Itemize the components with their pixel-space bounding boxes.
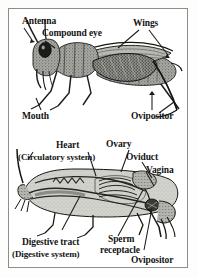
- label-digestive-tract: Digestive tract: [22, 237, 79, 247]
- label-oviduct: Oviduct: [126, 152, 158, 162]
- label-digestive-system: (Digestive system): [12, 249, 79, 259]
- label-sperm: Sperm: [108, 234, 134, 244]
- label-antenna: Antenna: [22, 16, 56, 26]
- figure-page: Antenna Compound eye Wings Mouth Oviposi…: [0, 0, 198, 278]
- label-wings: Wings: [133, 18, 158, 28]
- label-ovipositor: Ovipositor: [131, 111, 173, 121]
- label-mouth: Mouth: [22, 111, 49, 121]
- label-compound-eye: Compound eye: [42, 28, 102, 38]
- label-vagina: Vagina: [146, 165, 174, 175]
- label-heart: Heart: [56, 140, 79, 150]
- label-circulatory-system: (Circulatory system): [18, 152, 95, 162]
- label-ovipositor-lower: Ovipositor: [131, 255, 173, 265]
- label-receptacle: receptacle: [100, 245, 140, 255]
- compound-eye-shape: [39, 43, 51, 58]
- label-ovary: Ovary: [106, 139, 131, 149]
